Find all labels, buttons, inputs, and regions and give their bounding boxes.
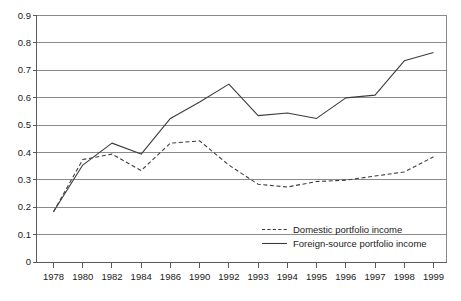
y-tick-label: 0.9 (18, 10, 31, 21)
series-line-domestic-portfolio-income (54, 141, 434, 212)
x-tick-label: 1998 (394, 271, 415, 282)
x-tick-label: 1995 (306, 271, 327, 282)
x-tick-label: 1994 (277, 271, 298, 282)
legend: Domestic portfolio income Foreign-source… (262, 224, 427, 249)
y-tick-label: 0.5 (18, 119, 31, 130)
x-tick-label: 1999 (423, 271, 444, 282)
y-tick-label: 0 (26, 256, 31, 267)
y-tick-label: 0.3 (18, 174, 31, 185)
x-tick-label: 1982 (101, 271, 122, 282)
series-line-foreign-source-portfolio-income (54, 53, 434, 212)
line-chart: 0.9 0.8 0.7 0.6 0.5 0.4 0.3 0.2 0.1 0 (0, 0, 461, 301)
x-tick-label: 1986 (160, 271, 181, 282)
gridlines (37, 16, 447, 235)
y-tick-label: 0.6 (18, 92, 31, 103)
x-tick-label: 1984 (131, 271, 152, 282)
y-tick-label: 0.4 (18, 147, 31, 158)
x-tick-label: 1992 (218, 271, 239, 282)
x-tick-label: 1993 (248, 271, 269, 282)
x-tick-label: 1990 (189, 271, 210, 282)
chart-container: 0.9 0.8 0.7 0.6 0.5 0.4 0.3 0.2 0.1 0 (0, 0, 461, 301)
x-tick-label: 1997 (364, 271, 385, 282)
x-tick-label: 1980 (72, 271, 93, 282)
y-tick-label: 0.2 (18, 201, 31, 212)
legend-label-domestic: Domestic portfolio income (293, 224, 402, 235)
y-axis-tick-marks (33, 16, 37, 263)
x-axis-tick-labels: 1978198019821984198619901992199319941995… (43, 271, 444, 282)
y-tick-label: 0.1 (18, 229, 31, 240)
y-tick-label: 0.8 (18, 37, 31, 48)
y-tick-label: 0.7 (18, 64, 31, 75)
x-tick-label: 1996 (335, 271, 356, 282)
x-tick-label: 1978 (43, 271, 64, 282)
legend-label-foreign-source: Foreign-source portfolio income (293, 238, 427, 249)
y-axis-tick-labels: 0.9 0.8 0.7 0.6 0.5 0.4 0.3 0.2 0.1 0 (18, 10, 31, 268)
x-axis-tick-marks (54, 263, 434, 268)
data-series-group (54, 53, 434, 212)
